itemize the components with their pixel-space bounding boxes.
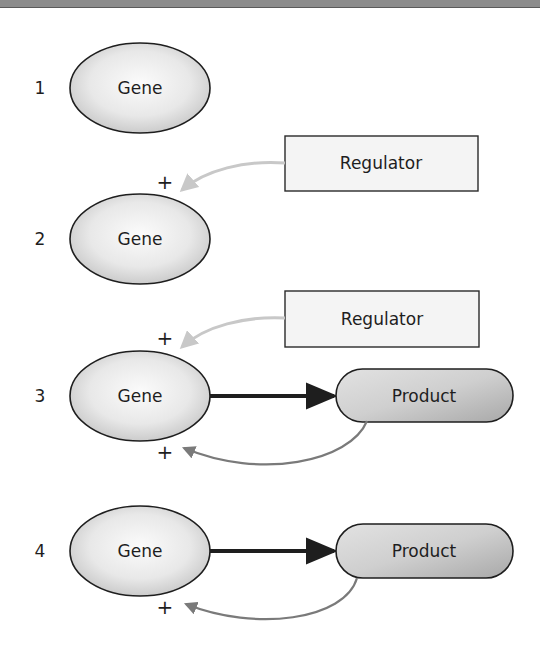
row-number: 2 <box>35 229 46 249</box>
product-node: Product <box>336 369 513 422</box>
gene-regulation-diagram: 1 Gene Regulator + 2 Gene Regulator + 3 … <box>0 0 540 648</box>
row-number: 1 <box>35 78 46 98</box>
gene-node: Gene <box>70 194 210 284</box>
plus-sign: + <box>157 440 174 464</box>
plus-sign: + <box>157 326 174 350</box>
product-label: Product <box>392 541 457 561</box>
regulator-node: Regulator <box>285 136 478 191</box>
gene-label: Gene <box>118 386 163 406</box>
gene-label: Gene <box>118 78 163 98</box>
product-node: Product <box>336 524 513 578</box>
row-1: 1 Gene <box>35 43 210 133</box>
gene-label: Gene <box>118 541 163 561</box>
regulator-label: Regulator <box>341 309 423 329</box>
gene-node: Gene <box>70 351 210 441</box>
plus-sign: + <box>157 170 174 194</box>
regulator-activation-arrow <box>182 318 285 347</box>
gene-node: Gene <box>70 506 210 596</box>
feedback-arrow <box>186 578 357 619</box>
gene-label: Gene <box>118 229 163 249</box>
regulator-node: Regulator <box>285 291 479 347</box>
row-number: 4 <box>35 541 46 561</box>
plus-sign: + <box>157 595 174 619</box>
row-3: Regulator + 3 Gene Product + <box>35 291 513 464</box>
regulator-activation-arrow <box>182 162 285 190</box>
product-label: Product <box>392 386 457 406</box>
gene-node: Gene <box>70 43 210 133</box>
row-4: 4 Gene Product + <box>35 506 513 619</box>
regulator-label: Regulator <box>340 153 422 173</box>
row-2: Regulator + 2 Gene <box>35 136 478 284</box>
row-number: 3 <box>35 386 46 406</box>
feedback-arrow <box>184 421 367 464</box>
